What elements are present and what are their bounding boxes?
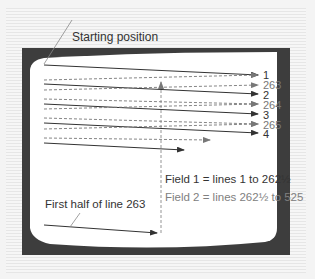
field2-label: Field 2 = lines 262½ to 525 xyxy=(165,191,303,203)
tv-screen xyxy=(30,52,277,248)
field1-label: Field 1 = lines 1 to 262½ xyxy=(165,173,291,185)
first-half-label: First half of line 263 xyxy=(45,198,145,210)
line-number-4: 4 xyxy=(263,128,269,140)
interlace-diagram-svg: Starting position First half of line 263… xyxy=(0,0,315,279)
diagram: Starting position First half of line 263… xyxy=(0,0,315,279)
starting-position-label: Starting position xyxy=(72,30,158,44)
